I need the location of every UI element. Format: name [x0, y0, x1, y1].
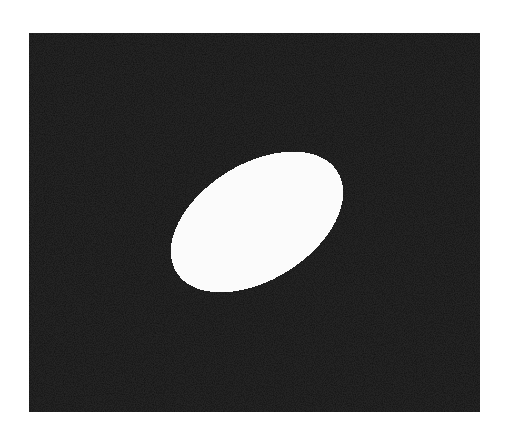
binary-ellipse-figure [0, 0, 513, 430]
figure-canvas [0, 0, 513, 430]
